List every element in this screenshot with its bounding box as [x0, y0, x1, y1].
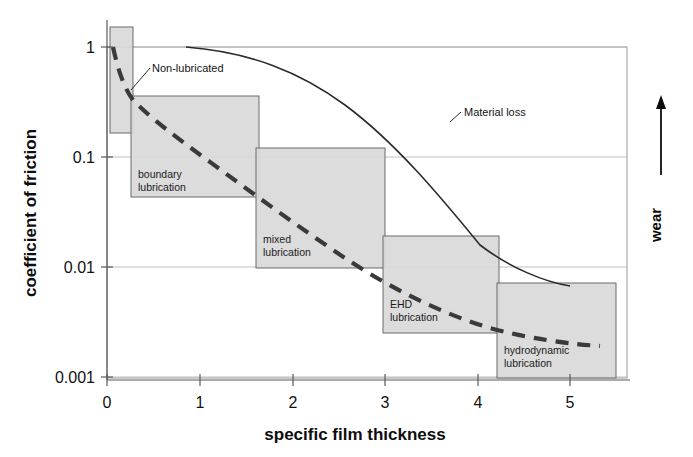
region-label-hydrodynamic-line1: hydrodynamic — [504, 344, 569, 356]
x-tick-label-2: 2 — [289, 394, 298, 411]
region-label-mixed-line2: lubrication — [263, 246, 311, 258]
region-label-boundary-line1: boundary — [138, 168, 183, 180]
x-tick-label-1: 1 — [196, 394, 205, 411]
region-label-mixed-line1: mixed — [263, 233, 291, 245]
y-tick-label-0_01: 0.01 — [64, 259, 95, 276]
friction-vs-film-thickness-chart: boundary lubrication mixed lubrication E… — [0, 0, 693, 457]
wear-axis-label: wear — [647, 208, 664, 243]
x-axis-title: specific film thickness — [264, 425, 445, 444]
x-tick-label-5: 5 — [566, 394, 575, 411]
y-tick-label-1: 1 — [86, 39, 95, 56]
x-tick-label-3: 3 — [381, 394, 390, 411]
x-tick-label-0: 0 — [103, 394, 112, 411]
x-tick-label-4: 4 — [474, 394, 483, 411]
region-label-boundary-line2: lubrication — [138, 181, 186, 193]
wear-arrow-head-icon — [656, 95, 666, 109]
material-loss-annotation: Material loss — [464, 106, 526, 118]
y-axis-title: coefficient of friction — [21, 129, 40, 297]
chart-page: boundary lubrication mixed lubrication E… — [0, 0, 693, 457]
non-lubricated-annotation: Non-lubricated — [152, 62, 224, 74]
y-tick-label-0_001: 0.001 — [55, 369, 95, 386]
region-label-ehd-line2: lubrication — [390, 311, 438, 323]
y-tick-label-0_1: 0.1 — [73, 149, 95, 166]
non-lubricated-leader-line — [131, 68, 150, 90]
material-loss-leader-line — [450, 112, 461, 122]
region-label-ehd-line1: EHD — [390, 298, 413, 310]
region-label-hydrodynamic-line2: lubrication — [504, 357, 552, 369]
